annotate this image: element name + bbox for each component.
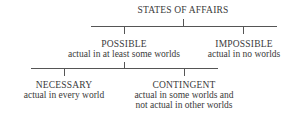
connector	[243, 26, 244, 34]
node-impossible: IMPOSSIBLE actual in no worlds	[203, 39, 285, 59]
connector	[91, 26, 277, 27]
connector	[124, 26, 125, 34]
node-description: actual in at least some worlds	[64, 49, 184, 59]
node-title: POSSIBLE	[64, 39, 184, 49]
node-description: actual in every world	[16, 90, 112, 100]
node-title: CONTINGENT	[126, 80, 242, 90]
node-necessary: NECESSARY actual in every world	[16, 80, 112, 100]
connector	[64, 68, 65, 76]
node-description: actual in some worlds and	[126, 90, 242, 100]
connector	[31, 68, 218, 69]
node-title: IMPOSSIBLE	[203, 39, 285, 49]
connector	[183, 19, 184, 26]
node-states-of-affairs: STATES OF AFFAIRS	[133, 5, 233, 15]
node-description: not actual in other worlds	[126, 100, 242, 110]
node-title: NECESSARY	[16, 80, 112, 90]
node-possible: POSSIBLE actual in at least some worlds	[64, 39, 184, 59]
node-description: actual in no worlds	[203, 49, 285, 59]
connector	[184, 68, 185, 76]
node-title: STATES OF AFFAIRS	[133, 5, 233, 15]
node-contingent: CONTINGENT actual in some worlds and not…	[126, 80, 242, 110]
